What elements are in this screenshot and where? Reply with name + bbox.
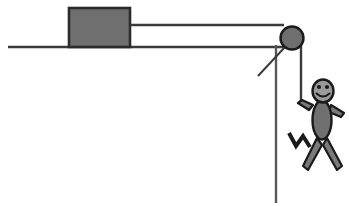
person-head [313,80,334,103]
person-right-eye-icon [325,85,329,89]
block-body [69,8,130,47]
physics-diagram-svg [0,0,349,206]
person-left-eye-icon [317,85,321,89]
pulley-wheel [281,27,304,50]
person-torso [313,101,332,140]
physics-diagram-root [0,0,349,206]
